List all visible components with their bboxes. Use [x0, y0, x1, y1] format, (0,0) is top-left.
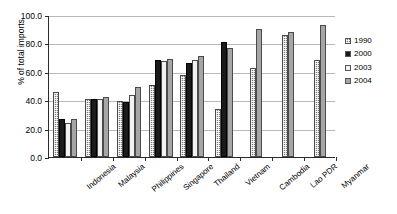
- bar-group: [177, 16, 209, 157]
- legend-label: 1990: [354, 37, 372, 45]
- y-axis-tickmark: [45, 158, 49, 159]
- bar: [288, 32, 294, 157]
- legend-label: 2003: [354, 64, 372, 72]
- bar: [256, 29, 262, 157]
- x-axis-tick-label: Vietnam: [244, 162, 272, 188]
- legend-label: 2004: [354, 77, 372, 85]
- bar-group: [272, 16, 304, 157]
- legend-swatch-icon: [345, 51, 351, 57]
- x-axis-tick-label: Myanmar: [340, 162, 371, 190]
- x-axis-tick-label: Cambodia: [277, 162, 311, 192]
- legend-swatch-icon: [345, 38, 351, 44]
- x-axis-tick-label: Singapore: [182, 162, 216, 192]
- x-axis-tickmark: [240, 157, 241, 161]
- bar: [167, 59, 173, 157]
- x-axis-tick-label: Indonesia: [85, 162, 117, 191]
- y-axis-tick-label: 20.0: [10, 126, 42, 134]
- y-axis-tick-label: 0.0: [10, 154, 42, 162]
- x-axis-tickmark: [145, 157, 146, 161]
- bar-group: [208, 16, 240, 157]
- bar: [71, 119, 77, 157]
- legend-item: 1990: [345, 34, 372, 48]
- x-axis-tick-label: Philippines: [150, 162, 185, 194]
- bar-group: [304, 16, 336, 157]
- x-axis-tickmark: [272, 157, 273, 161]
- bar-group: [113, 16, 145, 157]
- x-axis-tickmark: [336, 157, 337, 161]
- y-axis-tick-label: 60.0: [10, 69, 42, 77]
- bar: [103, 97, 109, 157]
- bar-group: [49, 16, 81, 157]
- bar: [135, 87, 141, 157]
- x-axis-tickmark: [304, 157, 305, 161]
- x-axis-tickmark: [208, 157, 209, 161]
- bar-chart: % of total imports 0.020.040.060.080.010…: [0, 0, 397, 214]
- bar-group: [145, 16, 177, 157]
- y-axis-tick-labels: 0.020.040.060.080.0100.0: [6, 0, 42, 214]
- bar-group: [240, 16, 272, 157]
- chart-legend: 1990200020032004: [345, 34, 372, 88]
- y-axis-tick-label: 80.0: [10, 40, 42, 48]
- y-axis-tick-label: 100.0: [10, 12, 42, 20]
- legend-label: 2000: [354, 50, 372, 58]
- bar-group: [81, 16, 113, 157]
- legend-item: 2004: [345, 75, 372, 89]
- bar: [198, 56, 204, 157]
- x-axis-tick-label: Thailand: [212, 162, 241, 189]
- bar: [320, 25, 326, 157]
- x-axis-tickmark: [81, 157, 82, 161]
- plot-area: [48, 16, 335, 158]
- legend-item: 2003: [345, 61, 372, 75]
- legend-swatch-icon: [345, 65, 351, 71]
- legend-item: 2000: [345, 48, 372, 62]
- x-axis-tick-label: Lao PDR: [308, 162, 339, 190]
- x-axis-tickmark: [177, 157, 178, 161]
- bar: [227, 48, 233, 157]
- x-axis-tickmark: [113, 157, 114, 161]
- x-axis-tick-label: Malaysia: [117, 162, 147, 189]
- legend-swatch-icon: [345, 78, 351, 84]
- y-axis-tick-label: 40.0: [10, 97, 42, 105]
